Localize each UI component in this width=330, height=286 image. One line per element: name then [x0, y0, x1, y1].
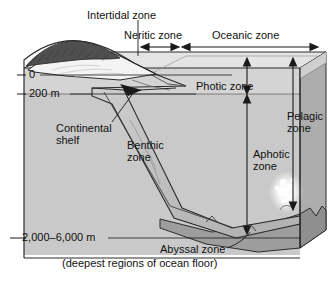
depth-tick-label-200m: 200 m — [29, 87, 60, 99]
label-neritic-zone: Neritic zone — [124, 29, 182, 41]
label-abyssal-caption: (deepest regions of ocean floor) — [62, 257, 217, 269]
label-abyssal-zone: Abyssal zone — [160, 243, 225, 255]
label-continental-shelf-line1: Continental — [56, 122, 112, 134]
ocean-zones-diagram: Intertidal zone Neritic zone Oceanic zon… — [0, 0, 330, 286]
label-aphotic-zone-line1: Aphotic — [253, 148, 290, 160]
label-pelagic-zone-line1: Pelagic — [287, 110, 323, 122]
label-pelagic-zone-line2: zone — [287, 122, 311, 134]
label-benthic-zone-line1: Benthic — [127, 139, 164, 151]
label-continental-shelf-line2: shelf — [56, 134, 79, 146]
label-photic-zone: Photic zone — [196, 80, 253, 92]
label-benthic-zone-line2: zone — [127, 151, 151, 163]
label-intertidal-zone: Intertidal zone — [87, 9, 156, 21]
right-side-face — [300, 52, 326, 248]
label-oceanic-zone: Oceanic zone — [212, 29, 279, 41]
depth-tick-label-0: 0 — [29, 68, 35, 80]
depth-tick-label-abyssal: 2,000–6,000 m — [22, 231, 95, 243]
hydrothermal-vent — [269, 171, 303, 213]
label-aphotic-zone-line2: zone — [253, 160, 277, 172]
